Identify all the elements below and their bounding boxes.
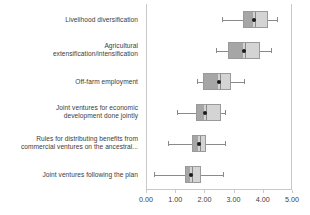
- x-tick-label: 1.00: [168, 195, 182, 204]
- plot-area: [146, 4, 292, 190]
- x-tick-label: 4.00: [256, 195, 270, 204]
- mean-marker-dot: [189, 173, 193, 177]
- x-tick: [204, 190, 205, 193]
- x-tick: [292, 190, 293, 193]
- category-label-5: Rules for distributing benefits fromcomm…: [0, 135, 138, 152]
- category-label-2: Agriculturalextensification/intensificat…: [0, 42, 138, 59]
- x-tick: [146, 190, 147, 193]
- category-label-1: Livelihood diversification: [0, 15, 138, 24]
- x-tick-label: 0.00: [139, 195, 153, 204]
- mean-marker-dot: [197, 142, 201, 146]
- whisker-cap-low: [222, 17, 223, 22]
- box-iqr: [196, 104, 221, 121]
- category-label-4: Joint ventures for economicdevelopment d…: [0, 104, 138, 121]
- whisker-low: [177, 113, 196, 114]
- x-axis-ticks: [146, 190, 292, 194]
- mean-marker-dot: [217, 80, 221, 84]
- category-label-line: Joint ventures following the plan: [0, 170, 138, 179]
- category-label-line: development done jointly: [0, 113, 138, 122]
- mean-marker-dot: [203, 111, 207, 115]
- whisker-high: [268, 20, 277, 21]
- category-label-line: Livelihood diversification: [0, 15, 138, 24]
- x-tick-label: 5.00: [285, 195, 299, 204]
- x-axis-tick-labels: 0.001.002.003.004.005.00: [0, 195, 310, 209]
- whisker-low: [154, 175, 185, 176]
- whisker-cap-low: [197, 79, 198, 84]
- boxplot-chart-figure: Livelihood diversificationAgriculturalex…: [0, 0, 310, 215]
- whisker-cap-high: [277, 17, 278, 22]
- category-label-line: commercial ventures on the ancestral...: [0, 144, 138, 153]
- whisker-cap-high: [225, 110, 226, 115]
- whisker-low: [216, 51, 228, 52]
- whisker-high: [206, 144, 225, 145]
- whisker-cap-low: [154, 172, 155, 177]
- x-tick: [175, 190, 176, 193]
- whisker-low: [222, 20, 242, 21]
- whisker-cap-low: [216, 48, 217, 53]
- whisker-high: [201, 175, 223, 176]
- x-tick: [263, 190, 264, 193]
- whisker-cap-high: [244, 79, 245, 84]
- whisker-high: [231, 82, 244, 83]
- category-axis-labels: Livelihood diversificationAgriculturalex…: [0, 4, 142, 190]
- category-label-line: extensification/intensification: [0, 51, 138, 60]
- category-label-line: Joint ventures for economic: [0, 104, 138, 113]
- whisker-cap-high: [223, 172, 224, 177]
- x-tick-label: 3.00: [227, 195, 241, 204]
- whisker-cap-high: [271, 48, 272, 53]
- category-label-line: Rules for distributing benefits from: [0, 135, 138, 144]
- whisker-cap-low: [177, 110, 178, 115]
- category-label-line: Agricultural: [0, 42, 138, 51]
- mean-marker-dot: [242, 49, 246, 53]
- whisker-cap-high: [225, 141, 226, 146]
- box-iqr: [185, 166, 201, 183]
- whisker-cap-low: [168, 141, 169, 146]
- category-label-6: Joint ventures following the plan: [0, 170, 138, 179]
- whisker-high: [260, 51, 271, 52]
- x-tick-label: 2.00: [197, 195, 211, 204]
- whisker-low: [168, 144, 192, 145]
- category-label-3: Off-farm employment: [0, 77, 138, 86]
- category-label-line: Off-farm employment: [0, 77, 138, 86]
- x-tick: [234, 190, 235, 193]
